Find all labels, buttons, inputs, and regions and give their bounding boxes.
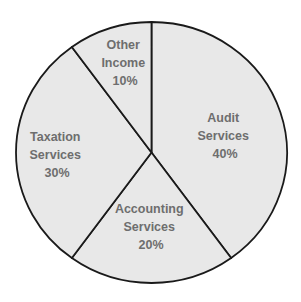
label-line: 30% bbox=[44, 166, 69, 180]
label-line: Other bbox=[107, 38, 140, 52]
label-line: Services bbox=[198, 129, 249, 143]
label-line: Services bbox=[124, 220, 175, 234]
label-line: Accounting bbox=[115, 202, 184, 216]
label-line: Audit bbox=[207, 111, 240, 125]
label-line: 10% bbox=[112, 74, 137, 88]
label-line: 20% bbox=[138, 238, 163, 252]
pie-chart: Audit Services 40% Accounting Services 2… bbox=[0, 0, 301, 302]
label-line: Income bbox=[101, 56, 145, 70]
label-line: Taxation bbox=[30, 130, 80, 144]
label-line: Services bbox=[30, 148, 81, 162]
label-line: 40% bbox=[212, 147, 237, 161]
